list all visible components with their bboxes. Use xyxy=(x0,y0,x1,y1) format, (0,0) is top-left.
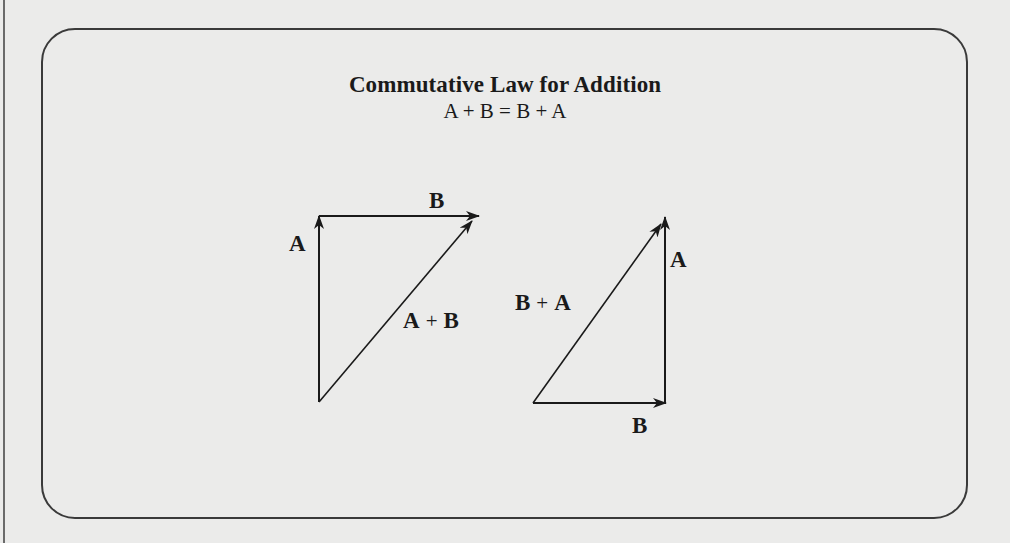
right-sum-label: B+A xyxy=(515,291,571,314)
sum-right-term: A xyxy=(554,290,571,315)
sum-left-term: A xyxy=(403,308,420,333)
right-vector-b-label: B xyxy=(632,414,647,437)
sum-left-term: B xyxy=(515,290,530,315)
left-vector-b-label: B xyxy=(429,189,444,212)
left-sum-label: A+B xyxy=(403,309,459,332)
right-vector-a-label: A xyxy=(670,248,687,271)
sum-right-term: B xyxy=(443,308,458,333)
vector-diagram xyxy=(0,0,1010,543)
plus-operator: + xyxy=(536,291,548,315)
left-vector-a-label: A xyxy=(289,232,306,255)
plus-operator: + xyxy=(426,309,438,333)
